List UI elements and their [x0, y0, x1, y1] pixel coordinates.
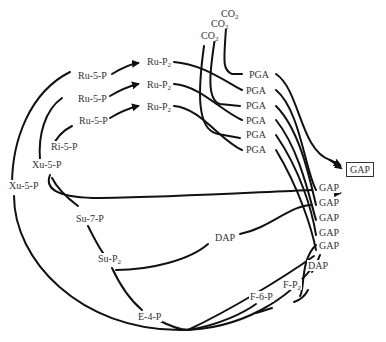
gap-label: GAP: [318, 212, 340, 223]
pga-label: PGA: [245, 85, 267, 96]
su7p-label: Su-7-P: [75, 213, 105, 224]
gap-label: GAP: [318, 240, 340, 251]
co2-label: CO2: [210, 18, 229, 29]
gap-label: GAP: [318, 227, 340, 238]
rup2-label: Ru-P2: [146, 56, 172, 67]
pga-label: PGA: [245, 100, 267, 111]
pathway-arrows: [0, 0, 386, 342]
f6p-label: F-6-P: [249, 291, 274, 302]
gap-output-box: GAP: [346, 162, 374, 177]
ru5p-label: Ru-5-P: [77, 70, 108, 81]
co2-label: CO2: [200, 30, 219, 41]
xu5p-inner-label: Xu-5-P: [31, 159, 62, 170]
pga-label: PGA: [245, 144, 267, 155]
fp2-label: F-P2: [282, 279, 302, 290]
ri5p-label: Ri-5-P: [50, 141, 79, 152]
gap-label: GAP: [318, 197, 340, 208]
dap-mid-label: DAP: [214, 232, 236, 243]
rup2-label: Ru-P2: [146, 79, 172, 90]
xu5p-outer-label: Xu-5-P: [8, 180, 39, 191]
e4p-label: E-4-P: [137, 311, 162, 322]
ru5p-label: Ru-5-P: [78, 115, 109, 126]
pga-label: PGA: [245, 129, 267, 140]
gap-label: GAP: [318, 182, 340, 193]
rup2-label: Ru-P2: [146, 101, 172, 112]
pga-label: PGA: [248, 69, 270, 80]
co2-to-pga-3: [200, 46, 240, 138]
pga-label: PGA: [245, 115, 267, 126]
sup2-label: Su-P2: [97, 253, 122, 264]
dap-right-label: DAP: [307, 260, 329, 271]
ru5p-label: Ru-5-P: [77, 93, 108, 104]
co2-to-pga-1: [224, 28, 242, 74]
